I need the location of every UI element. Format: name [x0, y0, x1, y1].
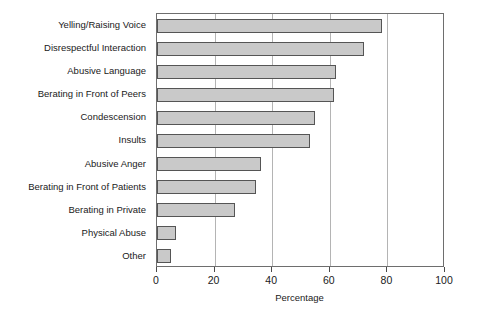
- bar: [157, 134, 310, 148]
- y-axis-label: Insults: [119, 128, 146, 151]
- plot-area: [156, 13, 444, 267]
- y-axis-label: Physical Abuse: [82, 221, 146, 244]
- bar: [157, 19, 382, 33]
- bar-row: [157, 176, 443, 199]
- bar: [157, 180, 256, 194]
- x-axis-tick-label: 80: [381, 274, 393, 286]
- y-axis-label: Yelling/Raising Voice: [58, 13, 146, 36]
- bar: [157, 88, 334, 102]
- tick-mark-20: [214, 267, 215, 272]
- y-axis-label: Disrespectful Interaction: [44, 36, 146, 59]
- x-axis-title: Percentage: [0, 292, 477, 303]
- y-axis-label: Abusive Anger: [85, 152, 146, 175]
- x-axis-title-label: Percentage: [275, 292, 324, 303]
- bar: [157, 42, 364, 56]
- y-axis-label: Berating in Private: [68, 198, 146, 221]
- bar-row: [157, 222, 443, 245]
- y-axis-label: Berating in Front of Patients: [28, 175, 146, 198]
- tick-mark-40: [271, 267, 272, 272]
- bar-row: [157, 106, 443, 129]
- bar-row: [157, 83, 443, 106]
- bar-row: [157, 60, 443, 83]
- tick-mark-100: [444, 267, 445, 272]
- bar-row: [157, 37, 443, 60]
- tick-mark-80: [386, 267, 387, 272]
- y-axis-label: Abusive Language: [67, 59, 146, 82]
- bar: [157, 203, 235, 217]
- x-axis-tick-label: 100: [435, 274, 453, 286]
- y-axis-label: Berating in Front of Peers: [38, 82, 146, 105]
- x-axis-tick-label: 20: [208, 274, 220, 286]
- tick-mark-60: [329, 267, 330, 272]
- y-axis-label: Condescension: [81, 105, 147, 128]
- bar: [157, 65, 336, 79]
- x-axis-tick-label: 60: [323, 274, 335, 286]
- x-axis-ticks: 020406080100: [0, 267, 477, 289]
- y-axis-category-labels: Yelling/Raising VoiceDisrespectful Inter…: [0, 13, 151, 267]
- bar: [157, 249, 171, 263]
- bar: [157, 111, 315, 125]
- x-axis-tick-label: 40: [265, 274, 277, 286]
- y-axis-label: Other: [122, 244, 146, 267]
- bar-row: [157, 245, 443, 268]
- bar-row: [157, 129, 443, 152]
- bar-row: [157, 153, 443, 176]
- tick-mark-0: [156, 267, 157, 272]
- bar-row: [157, 199, 443, 222]
- bar-row: [157, 14, 443, 37]
- bar-chart: Yelling/Raising VoiceDisrespectful Inter…: [0, 0, 477, 321]
- bar: [157, 157, 261, 171]
- bar: [157, 226, 176, 240]
- x-axis-tick-label: 0: [153, 274, 159, 286]
- bars-layer: [157, 14, 443, 266]
